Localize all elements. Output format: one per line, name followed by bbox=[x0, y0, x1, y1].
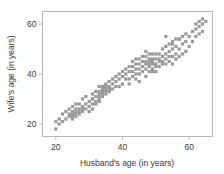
scatter-point bbox=[158, 52, 161, 55]
scatter-point bbox=[198, 20, 201, 23]
scatter-point bbox=[154, 62, 157, 65]
scatter-point bbox=[71, 105, 74, 108]
x-tick-label: 40 bbox=[118, 142, 128, 152]
scatter-point bbox=[198, 25, 201, 28]
scatter-point bbox=[134, 67, 137, 70]
scatter-point bbox=[111, 82, 114, 85]
x-tick-label: 20 bbox=[51, 142, 61, 152]
scatter-point bbox=[148, 57, 151, 60]
y-tick-label: 20 bbox=[27, 119, 37, 129]
scatter-point bbox=[98, 90, 101, 93]
scatter-point bbox=[154, 70, 157, 73]
scatter-point bbox=[61, 112, 64, 115]
scatter-point bbox=[138, 62, 141, 65]
scatter-point bbox=[118, 72, 121, 75]
x-tick-label: 60 bbox=[184, 142, 194, 152]
scatter-point bbox=[144, 60, 147, 63]
scatter-point bbox=[194, 22, 197, 25]
scatter-point bbox=[138, 80, 141, 83]
scatter-point bbox=[134, 77, 137, 80]
scatter-point bbox=[98, 100, 101, 103]
y-tick-label: 40 bbox=[27, 69, 37, 79]
scatter-point bbox=[174, 37, 177, 40]
scatter-point bbox=[194, 35, 197, 38]
scatter-point bbox=[171, 62, 174, 65]
scatter-point bbox=[184, 32, 187, 35]
scatter-point bbox=[174, 57, 177, 60]
scatter-point bbox=[98, 85, 101, 88]
scatter-point bbox=[128, 65, 131, 68]
scatter-point bbox=[181, 35, 184, 38]
scatter-point bbox=[81, 105, 84, 108]
scatter-point bbox=[121, 82, 124, 85]
scatter-point bbox=[64, 117, 67, 120]
scatter-point bbox=[118, 85, 121, 88]
scatter-point bbox=[71, 110, 74, 113]
scatter-point bbox=[178, 55, 181, 58]
scatter-point bbox=[141, 65, 144, 68]
scatter-point bbox=[138, 72, 141, 75]
scatter-point bbox=[168, 42, 171, 45]
scatter-point bbox=[134, 57, 137, 60]
scatter-point bbox=[184, 50, 187, 53]
scatter-point bbox=[128, 82, 131, 85]
scatter-point bbox=[194, 27, 197, 30]
scatter-point bbox=[164, 62, 167, 65]
scatter-point bbox=[198, 32, 201, 35]
scatter-point bbox=[121, 75, 124, 78]
scatter-point bbox=[171, 42, 174, 45]
scatter-point bbox=[168, 55, 171, 58]
scatter-point bbox=[61, 120, 64, 123]
scatter-point bbox=[88, 110, 91, 113]
scatter-point bbox=[91, 102, 94, 105]
scatter-point bbox=[124, 77, 127, 80]
scatter-point bbox=[144, 75, 147, 78]
scatter-point bbox=[64, 110, 67, 113]
scatter-point bbox=[101, 85, 104, 88]
scatter-point bbox=[84, 107, 87, 110]
scatter-point bbox=[68, 112, 71, 115]
scatter-point bbox=[71, 117, 74, 120]
scatter-point bbox=[124, 67, 127, 70]
scatter-point bbox=[164, 57, 167, 60]
scatter-point bbox=[131, 75, 134, 78]
scatter-point bbox=[141, 60, 144, 63]
scatter-point bbox=[168, 60, 171, 63]
scatter-point bbox=[54, 127, 57, 130]
scatter-plot-figure: 204060 204060 Husband's age (in years) W… bbox=[0, 0, 224, 174]
scatter-point bbox=[111, 77, 114, 80]
scatter-point bbox=[178, 47, 181, 50]
scatter-point bbox=[161, 60, 164, 63]
scatter-point bbox=[94, 95, 97, 98]
scatter-point bbox=[168, 50, 171, 53]
scatter-point bbox=[184, 40, 187, 43]
scatter-point bbox=[138, 67, 141, 70]
scatter-point bbox=[74, 107, 77, 110]
scatter-point bbox=[151, 52, 154, 55]
scatter-point bbox=[134, 62, 137, 65]
scatter-point bbox=[108, 87, 111, 90]
scatter-point bbox=[91, 92, 94, 95]
scatter-point bbox=[104, 82, 107, 85]
x-axis-title: Husband's age (in years) bbox=[80, 158, 174, 168]
scatter-point bbox=[131, 60, 134, 63]
scatter-point bbox=[118, 77, 121, 80]
scatter-point bbox=[201, 22, 204, 25]
scatter-point bbox=[164, 52, 167, 55]
scatter-point bbox=[114, 85, 117, 88]
scatter-point bbox=[78, 102, 81, 105]
scatter-point bbox=[84, 95, 87, 98]
scatter-point bbox=[68, 107, 71, 110]
scatter-point bbox=[91, 107, 94, 110]
scatter-point bbox=[144, 55, 147, 58]
scatter-point bbox=[121, 70, 124, 73]
scatter-point bbox=[114, 75, 117, 78]
scatter-point bbox=[148, 70, 151, 73]
scatter-point bbox=[111, 87, 114, 90]
scatter-point bbox=[94, 90, 97, 93]
scatter-point bbox=[128, 77, 131, 80]
scatter-point bbox=[164, 35, 167, 38]
scatter-point bbox=[74, 102, 77, 105]
scatter-point bbox=[131, 65, 134, 68]
scatter-point bbox=[94, 102, 97, 105]
